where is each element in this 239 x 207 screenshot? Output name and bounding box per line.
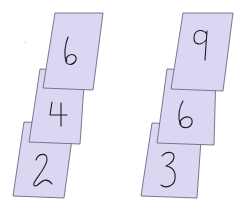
card-shape <box>171 13 233 91</box>
card-shape <box>43 13 103 90</box>
card-stacks-figure: 2 4 6 3 6 9 <box>0 0 239 207</box>
left-stack: 2 4 6 <box>0 0 103 198</box>
card-left-top: 6 <box>0 0 103 90</box>
speck <box>24 41 25 42</box>
card-right-top: 9 <box>0 0 233 91</box>
